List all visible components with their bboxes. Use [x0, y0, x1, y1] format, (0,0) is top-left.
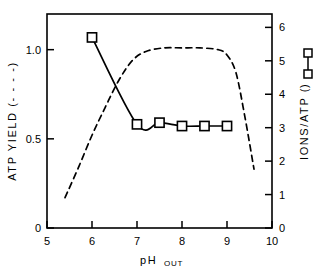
right-axis-title-paren-close: )	[298, 83, 310, 88]
data-marker-2	[155, 118, 164, 127]
data-marker-1	[132, 120, 141, 129]
chart-figure: 5678910 00.51.0 0123456 pH OUT ATP YIELD…	[0, 0, 322, 276]
right-axis-title-label: IONS/ATP (	[298, 87, 310, 160]
left-axis-title-label: ATP YIELD (- - - -)	[6, 61, 18, 181]
dual-axis-line-chart: 5678910 00.51.0 0123456 pH OUT ATP YIELD…	[0, 0, 322, 276]
left-tick-label-0.5: 0.5	[26, 133, 41, 145]
right-tick-label-4: 4	[279, 88, 285, 100]
right-tick-label-5: 5	[279, 55, 285, 67]
data-marker-0	[87, 33, 96, 42]
x-axis-title-subscript: OUT	[164, 259, 183, 268]
data-marker-5	[222, 121, 231, 130]
data-marker-3	[177, 121, 186, 130]
right-tick-label-2: 2	[279, 155, 285, 167]
left-tick-label-0: 0	[35, 222, 41, 234]
right-tick-label-0: 0	[279, 222, 285, 234]
right-tick-label-3: 3	[279, 122, 285, 134]
x-tick-label-6: 6	[89, 235, 95, 247]
x-tick-label-5: 5	[44, 235, 50, 247]
x-axis-title-main: pH	[140, 254, 157, 266]
x-tick-label-10: 10	[266, 235, 278, 247]
right-tick-label-1: 1	[279, 189, 285, 201]
left-axis-title: ATP YIELD (- - - -)	[6, 61, 18, 181]
x-tick-label-7: 7	[134, 235, 140, 247]
data-marker-4	[200, 121, 209, 130]
x-tick-label-9: 9	[224, 235, 230, 247]
left-tick-label-1.0: 1.0	[26, 44, 41, 56]
x-tick-label-8: 8	[179, 235, 185, 247]
right-tick-label-6: 6	[279, 21, 285, 33]
